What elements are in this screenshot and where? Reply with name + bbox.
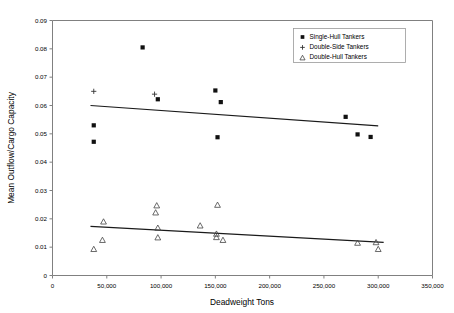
marker-triangle [101, 219, 107, 224]
y-axis-title: Mean Outflow/Cargo Capacity [6, 91, 16, 204]
marker-square [156, 97, 160, 101]
x-axis-ticks: 050,000100,000150,000200,000250,000300,0… [51, 276, 444, 289]
marker-triangle [220, 237, 226, 242]
legend-item: Double-Hull Tankers [300, 53, 367, 60]
single-hull-trend [91, 106, 379, 126]
marker-plus [91, 89, 96, 94]
legend-item-label: Single-Hull Tankers [310, 33, 365, 41]
x-tick-label: 250,000 [313, 282, 336, 289]
marker-triangle [100, 237, 106, 242]
series-plus [91, 89, 157, 97]
y-tick-label: 0.02 [35, 215, 48, 222]
data-points [91, 45, 381, 251]
marker-triangle [91, 246, 97, 251]
x-tick-label: 150,000 [204, 282, 227, 289]
chart-figure: 00.010.020.030.040.050.060.070.080.09 05… [0, 0, 454, 313]
x-tick-label: 50,000 [97, 282, 116, 289]
marker-triangle [375, 246, 381, 251]
x-tick-label: 100,000 [150, 282, 173, 289]
legend-item: Double-Side Tankers [300, 43, 369, 50]
y-tick-label: 0.04 [35, 158, 48, 165]
marker-plus [152, 92, 157, 97]
scatter-plot: 00.010.020.030.040.050.060.070.080.09 05… [0, 0, 454, 313]
y-tick-label: 0.06 [35, 102, 48, 109]
legend-item: Single-Hull Tankers [301, 33, 365, 41]
marker-square [355, 132, 359, 136]
x-tick-label: 350,000 [421, 282, 444, 289]
series-triangle [91, 202, 381, 251]
y-tick-label: 0.03 [35, 187, 48, 194]
x-tick-label: 300,000 [367, 282, 390, 289]
y-tick-label: 0 [44, 272, 48, 279]
marker-triangle [155, 225, 161, 230]
double-hull-trend [91, 226, 384, 242]
x-tick-label: 0 [51, 282, 55, 289]
x-tick-label: 200,000 [258, 282, 281, 289]
marker-square [219, 100, 223, 104]
y-tick-label: 0.07 [35, 73, 48, 80]
marker-square [213, 88, 217, 92]
marker-triangle [197, 223, 203, 228]
marker-triangle [154, 203, 160, 208]
marker-square-legend [301, 35, 305, 39]
marker-square [92, 123, 96, 127]
marker-square [344, 115, 348, 119]
legend-item-label: Double-Side Tankers [310, 43, 369, 50]
legend-item-label: Double-Hull Tankers [310, 53, 367, 60]
y-tick-label: 0.09 [35, 17, 48, 24]
marker-square [141, 45, 145, 49]
marker-square [92, 140, 96, 144]
y-tick-label: 0.08 [35, 45, 48, 52]
x-axis-title: Deadweight Tons [210, 297, 274, 307]
marker-triangle [155, 235, 161, 240]
y-axis-ticks: 00.010.020.030.040.050.060.070.080.09 [35, 17, 53, 279]
y-tick-label: 0.01 [35, 243, 48, 250]
trendlines [91, 106, 384, 243]
marker-square [215, 135, 219, 139]
marker-triangle [153, 210, 159, 215]
marker-square [369, 135, 373, 139]
chart-legend: Single-Hull TankersDouble-Side TankersDo… [294, 29, 406, 63]
y-tick-label: 0.05 [35, 130, 48, 137]
marker-triangle [215, 202, 221, 207]
